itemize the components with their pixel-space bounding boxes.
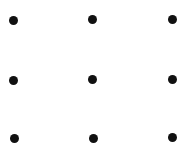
grid-dot-r1-c1	[9, 16, 18, 25]
grid-dot-r3-c2	[89, 134, 98, 143]
grid-dot-r1-c2	[88, 15, 97, 24]
grid-dot-r2-c3	[168, 75, 177, 84]
grid-dot-r3-c3	[168, 133, 177, 142]
grid-dot-r2-c1	[9, 76, 18, 85]
grid-dot-r3-c1	[10, 134, 19, 143]
grid-dot-r2-c2	[88, 75, 97, 84]
grid-dot-r1-c3	[168, 15, 177, 24]
